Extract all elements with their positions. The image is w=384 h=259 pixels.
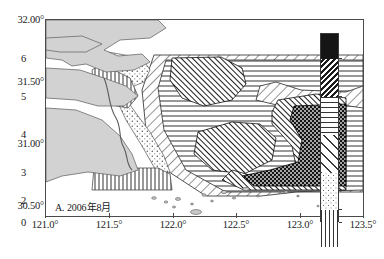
legend-label-6: 6 bbox=[21, 53, 26, 64]
x-tickmark-123-5 bbox=[363, 213, 364, 218]
legend-band-4-5 bbox=[321, 97, 338, 135]
legend-band-2-3 bbox=[321, 173, 338, 211]
legend-band-0-2 bbox=[321, 210, 338, 247]
x-tick-label-123-5: 123.5° bbox=[350, 219, 377, 230]
legend-tickmark-3 bbox=[339, 172, 342, 173]
legend-label-3: 3 bbox=[21, 166, 26, 177]
legend-tickmark-0 bbox=[339, 222, 342, 223]
y-tick-label-31-50: 31.50° bbox=[17, 76, 44, 87]
legend-tickmark-5 bbox=[339, 96, 342, 97]
x-tick-label-122-0: 122.0° bbox=[160, 219, 187, 230]
map-plot-area bbox=[45, 19, 364, 217]
x-tickmark-123-0 bbox=[300, 213, 301, 218]
legend-tickmark-6 bbox=[339, 58, 342, 59]
x-tickmark-122-5 bbox=[236, 213, 237, 218]
legend-label-5: 5 bbox=[21, 91, 26, 102]
legend-label-4: 4 bbox=[21, 128, 26, 139]
legend-label-0: 0 bbox=[21, 217, 26, 228]
y-tick-label-32-00: 32.00° bbox=[17, 14, 44, 25]
x-tickmark-121-0 bbox=[45, 213, 46, 218]
legend-tickmark-2 bbox=[339, 209, 342, 210]
x-tick-label-121-5: 121.5° bbox=[96, 219, 123, 230]
figure-panel: 32.00° 31.50° 31.00° 30.50° bbox=[0, 0, 384, 259]
x-tick-label-122-5: 122.5° bbox=[223, 219, 250, 230]
legend-band-3-4 bbox=[321, 135, 338, 173]
legend-tickmark-4 bbox=[339, 134, 342, 135]
legend-label-2: 2 bbox=[21, 195, 26, 206]
legend-colorbar bbox=[320, 33, 339, 222]
map-canvas bbox=[46, 20, 363, 216]
x-tick-label-121-0: 121.0° bbox=[32, 219, 59, 230]
legend-band-gt6 bbox=[321, 34, 338, 59]
legend-band-5-6 bbox=[321, 59, 338, 97]
x-tickmark-122-0 bbox=[173, 213, 174, 218]
panel-label: A. 2006年8月 bbox=[55, 199, 111, 214]
x-tick-label-123-0: 123.0° bbox=[287, 219, 314, 230]
